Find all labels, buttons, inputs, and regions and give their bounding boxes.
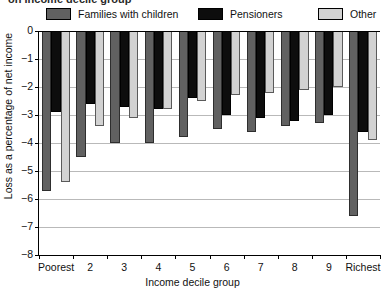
bar-6-1[interactable] bbox=[256, 31, 265, 118]
y-axis-label: Loss as a percentage of net income bbox=[2, 16, 14, 216]
bar-9-2[interactable] bbox=[368, 31, 377, 140]
bar-9-1[interactable] bbox=[358, 31, 367, 132]
x-tick-mark-last bbox=[380, 255, 381, 259]
chart-title-text: on income decile group bbox=[8, 0, 131, 5]
legend-swatch-icon-1 bbox=[198, 8, 223, 20]
bar-0-0[interactable] bbox=[42, 31, 51, 191]
bar-0-1[interactable] bbox=[51, 31, 60, 112]
x-axis-label: Income decile group bbox=[0, 276, 385, 288]
legend-item-0[interactable]: Families with children bbox=[46, 7, 178, 21]
x-tick-label-9: Richest bbox=[336, 261, 385, 273]
legend-label-0: Families with children bbox=[78, 8, 178, 20]
bar-4-0[interactable] bbox=[179, 31, 188, 137]
bar-3-0[interactable] bbox=[145, 31, 154, 143]
bar-1-0[interactable] bbox=[76, 31, 85, 157]
chart-legend: Families with childrenPensionersOther bbox=[46, 7, 376, 23]
legend-label-1: Pensioners bbox=[230, 8, 283, 20]
bar-2-1[interactable] bbox=[120, 31, 129, 107]
legend-item-1[interactable]: Pensioners bbox=[198, 7, 283, 21]
bottom-axis-line bbox=[39, 255, 380, 256]
chart-figure: on income decile group Families with chi… bbox=[0, 0, 385, 293]
bar-7-2[interactable] bbox=[299, 31, 308, 90]
y-tick-label--8: −8 bbox=[3, 248, 33, 260]
bar-0-2[interactable] bbox=[61, 31, 70, 182]
bar-2-2[interactable] bbox=[129, 31, 138, 118]
bar-8-1[interactable] bbox=[324, 31, 333, 115]
bar-4-1[interactable] bbox=[188, 31, 197, 98]
legend-swatch-icon-0 bbox=[46, 8, 71, 20]
zero-axis-line bbox=[39, 31, 380, 32]
legend-item-2[interactable]: Other bbox=[318, 7, 376, 21]
bar-1-2[interactable] bbox=[95, 31, 104, 126]
bar-2-0[interactable] bbox=[110, 31, 119, 143]
bar-8-0[interactable] bbox=[315, 31, 324, 123]
legend-swatch-icon-2 bbox=[318, 8, 343, 20]
legend-label-2: Other bbox=[350, 8, 376, 20]
bar-7-1[interactable] bbox=[290, 31, 299, 121]
bar-4-2[interactable] bbox=[197, 31, 206, 101]
bar-6-2[interactable] bbox=[265, 31, 274, 93]
bar-group-0 bbox=[39, 31, 73, 255]
bar-5-1[interactable] bbox=[222, 31, 231, 115]
bar-group-9 bbox=[346, 31, 380, 255]
bar-9-0[interactable] bbox=[349, 31, 358, 216]
bar-1-1[interactable] bbox=[86, 31, 95, 104]
bar-group-7 bbox=[278, 31, 312, 255]
bar-7-0[interactable] bbox=[281, 31, 290, 126]
bar-5-2[interactable] bbox=[231, 31, 240, 95]
bar-3-2[interactable] bbox=[163, 31, 172, 109]
y-tick-label--7: −7 bbox=[3, 220, 33, 232]
bar-8-2[interactable] bbox=[333, 31, 342, 87]
bar-group-8 bbox=[312, 31, 346, 255]
plot-area: 0−1−2−3−4−5−6−7−8Poorest23456789Richest bbox=[38, 31, 380, 255]
bar-3-1[interactable] bbox=[154, 31, 163, 109]
bar-group-6 bbox=[244, 31, 278, 255]
bar-group-5 bbox=[210, 31, 244, 255]
bar-group-4 bbox=[175, 31, 209, 255]
bar-group-3 bbox=[141, 31, 175, 255]
bar-group-2 bbox=[107, 31, 141, 255]
bar-group-1 bbox=[73, 31, 107, 255]
bar-6-0[interactable] bbox=[247, 31, 256, 132]
bar-5-0[interactable] bbox=[213, 31, 222, 129]
plot-inner: 0−1−2−3−4−5−6−7−8Poorest23456789Richest bbox=[39, 31, 380, 255]
